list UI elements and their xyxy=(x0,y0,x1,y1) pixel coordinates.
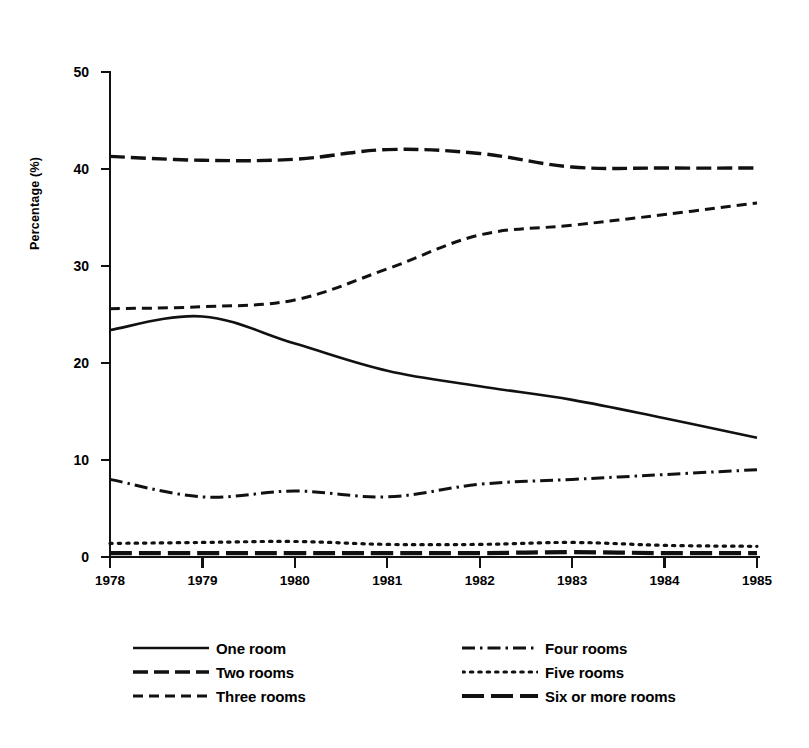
x-tick-label: 1980 xyxy=(267,574,323,588)
chart-figure: Percentage (%) 50403020100 1978197919801… xyxy=(0,0,809,748)
legend-item: Six or more rooms xyxy=(462,684,676,708)
chart-legend: One room Two rooms Three rooms Four room… xyxy=(0,636,809,716)
legend-label: Four rooms xyxy=(545,641,627,656)
legend-item: Two rooms xyxy=(133,660,306,684)
x-tick-label: 1985 xyxy=(729,574,785,588)
legend-label: Three rooms xyxy=(216,689,306,704)
x-tick-label: 1982 xyxy=(452,574,508,588)
legend-label: One room xyxy=(216,641,286,656)
legend-line-swatch-long-dash xyxy=(133,665,209,679)
legend-item: Five rooms xyxy=(462,660,676,684)
x-tick-label: 1978 xyxy=(82,574,138,588)
legend-line-swatch-dash xyxy=(133,689,209,703)
legend-line-swatch-dot xyxy=(462,665,538,679)
legend-item: Four rooms xyxy=(462,636,676,660)
legend-column-left: One room Two rooms Three rooms xyxy=(133,636,306,708)
x-tick-label: 1983 xyxy=(544,574,600,588)
legend-line-swatch-dash-dot xyxy=(462,641,538,655)
legend-label: Two rooms xyxy=(216,665,294,680)
legend-line-swatch-solid xyxy=(133,641,209,655)
legend-column-right: Four rooms Five rooms Six or more rooms xyxy=(462,636,676,708)
legend-label: Five rooms xyxy=(545,665,624,680)
legend-line-swatch-long-dash-thick xyxy=(462,689,538,703)
legend-label: Six or more rooms xyxy=(545,689,676,704)
x-tick-label: 1984 xyxy=(637,574,693,588)
x-tick-label: 1979 xyxy=(174,574,230,588)
legend-item: One room xyxy=(133,636,306,660)
legend-item: Three rooms xyxy=(133,684,306,708)
x-tick-label: 1981 xyxy=(359,574,415,588)
